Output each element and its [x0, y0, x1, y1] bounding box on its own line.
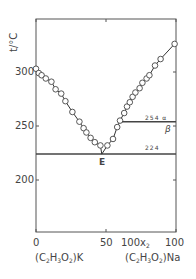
isotherm-224-label: 224: [145, 145, 159, 151]
right-compound-label: (C2H3O2)Na: [125, 253, 180, 264]
x-tick-50: 50: [100, 238, 113, 248]
eutectic-label: E: [99, 158, 105, 167]
y-tick-200: 200: [15, 175, 34, 185]
x-tick-0: 0: [33, 238, 39, 248]
plot-frame: [36, 19, 176, 232]
left-compound-label: (C2H3O2)K: [35, 253, 83, 264]
x-tick-100: 100: [165, 238, 184, 248]
data-points: [33, 41, 177, 148]
y-axis-label: t/°C: [8, 22, 22, 52]
axis-ticks: [36, 19, 176, 232]
beta-phase-label: β: [165, 125, 171, 134]
isotherm-254-label: 254 α: [145, 115, 167, 121]
liquidus-curves: [36, 44, 175, 154]
x-axis-label: 100x2: [121, 238, 150, 249]
y-tick-300: 300: [15, 67, 34, 77]
y-tick-250: 250: [15, 121, 34, 131]
